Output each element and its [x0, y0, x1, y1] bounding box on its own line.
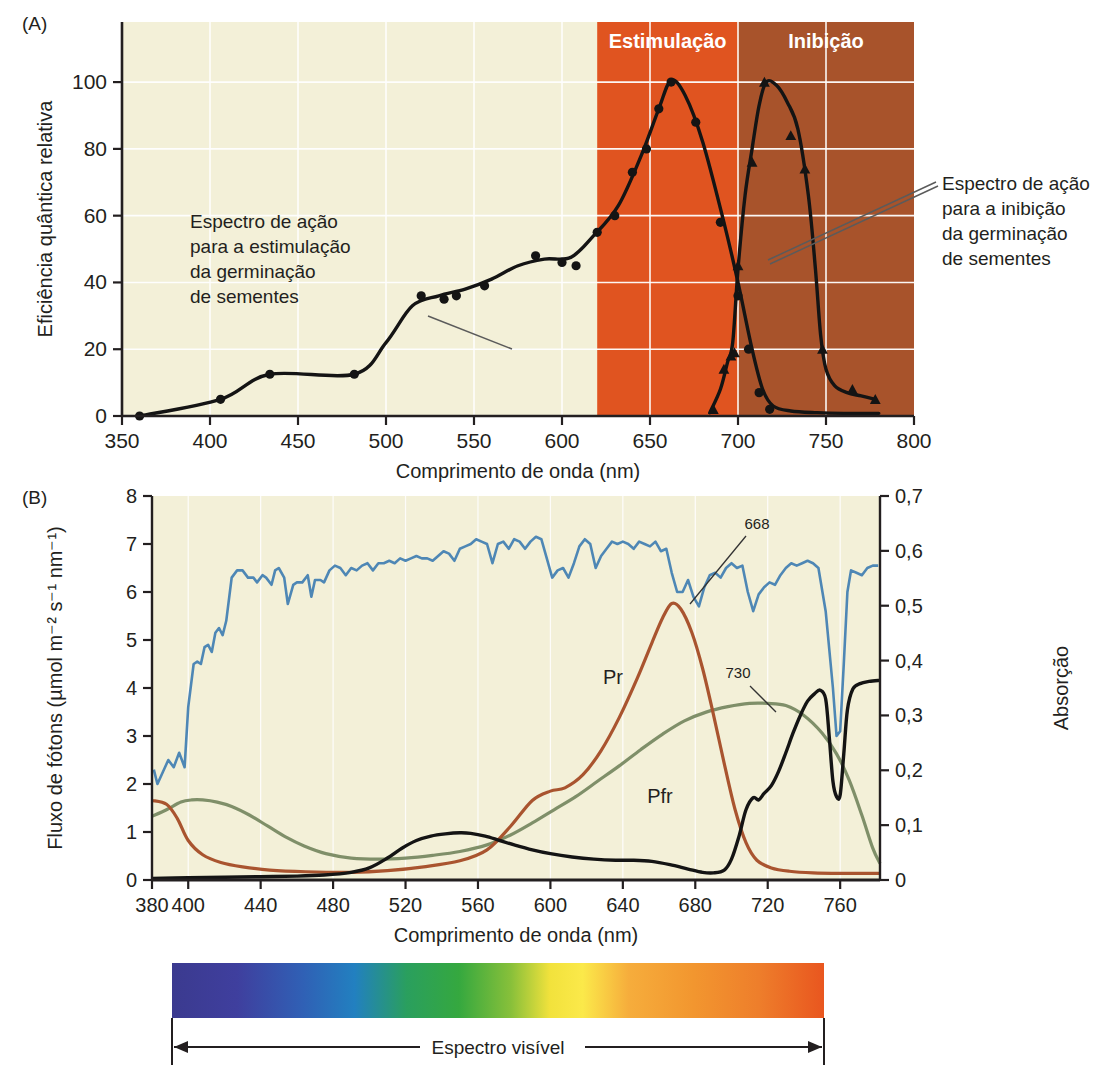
panel-b-x-tick-label: 720	[751, 894, 784, 916]
panel-a-y-tick-label: 40	[84, 270, 107, 293]
figure-root: (A) (B) EstimulaçãoInibição0204060801003…	[0, 0, 1113, 1069]
panel-b-x-tick-label: 480	[316, 894, 349, 916]
panel-b-x-tick-label: 440	[244, 894, 277, 916]
panel-a-y-tick-label: 100	[72, 70, 107, 93]
panel-b-y-tick-label-left: 6	[126, 581, 137, 603]
panel-a-y-tick-label: 20	[84, 337, 107, 360]
panel-a-stimulation-point	[610, 211, 619, 220]
panel-a-stimulation-point	[755, 388, 764, 397]
panel-b-x-tick-label: 520	[389, 894, 422, 916]
panel-b-y-tick-label-left: 5	[126, 629, 137, 651]
panel-b-y-tick-label-right: 0,1	[895, 814, 923, 836]
panel-a-x-tick-label: 650	[632, 429, 667, 452]
panel-a-y-tick-label: 60	[84, 204, 107, 227]
panel-a-stimulation-point	[452, 291, 461, 300]
panel-b-pfr-label: Pfr	[647, 785, 673, 807]
figure-svg: EstimulaçãoInibição020406080100350400450…	[0, 0, 1113, 1069]
panel-b-y-tick-label-left: 7	[126, 533, 137, 555]
panel-b-x-tick-label: 760	[823, 894, 856, 916]
panel-a-stimulation-point	[571, 261, 580, 270]
panel-b-y-tick-label-right: 0,5	[895, 595, 923, 617]
panel-a-annotation-left: da germinação	[190, 261, 316, 282]
spectrum-arrow-head-left	[174, 1041, 188, 1053]
panel-a-y-tick-label: 80	[84, 137, 107, 160]
panel-b-y-tick-label-left: 8	[126, 485, 137, 507]
panel-a-stimulation-point	[716, 218, 725, 227]
panel-a-x-tick-label: 400	[192, 429, 227, 452]
panel-b-x-tick-label: 640	[606, 894, 639, 916]
panel-b-x-tick-label: 680	[679, 894, 712, 916]
panel-a-stimulation-point	[744, 345, 753, 354]
panel-a-tag: (A)	[22, 13, 47, 35]
panel-a-stimulation-point	[480, 281, 489, 290]
panel-a-band-label: Estimulação	[609, 30, 727, 52]
panel-a-stimulation-point	[765, 405, 774, 414]
panel-b-pr-peak-label: 668	[744, 515, 769, 532]
panel-b-y-axis-title-left: Fluxo de fótons (µmol m⁻² s⁻¹ nm⁻¹)	[44, 526, 66, 849]
panel-b-x-tick-label: 560	[461, 894, 494, 916]
panel-b-x-tick-label: 400	[172, 894, 205, 916]
spectrum-arrow-head-right	[808, 1041, 822, 1053]
panel-a-x-tick-label: 800	[896, 429, 931, 452]
panel-b-y-tick-label-right: 0,6	[895, 540, 923, 562]
panel-b-y-tick-label-right: 0,2	[895, 759, 923, 781]
spectrum-bar-group: Espectro visível	[172, 963, 824, 1065]
panel-b-y-tick-label-right: 0,3	[895, 704, 923, 726]
spectrum-label: Espectro visível	[431, 1037, 564, 1058]
panel-a-stimulation-point	[531, 251, 540, 260]
panel-a-stimulation-point	[350, 370, 359, 379]
panel-a-stimulation-point	[417, 291, 426, 300]
panel-b-y-tick-label-right: 0	[895, 869, 906, 891]
panel-a-x-tick-label: 350	[104, 429, 139, 452]
panel-b-y-axis-title-right: Absorção	[1050, 646, 1072, 731]
panel-b-x-axis-title: Comprimento de onda (nm)	[394, 924, 639, 946]
panel-b-pfr-peak-label: 730	[725, 664, 750, 681]
panel-a-annotation-left: Espectro de ação	[190, 211, 338, 232]
panel-a-stimulation-point	[557, 258, 566, 267]
panel-a-stimulation-point	[733, 291, 742, 300]
panel-a-annotation-right: da germinação	[942, 223, 1068, 244]
panel-b-pr-label: Pr	[603, 666, 623, 688]
panel-a-x-tick-label: 700	[720, 429, 755, 452]
panel-b-tag: (B)	[22, 487, 47, 509]
panel-a-stimulation-point	[654, 104, 663, 113]
panel-b-y-tick-label-left: 3	[126, 725, 137, 747]
panel-b-y-tick-label-left: 4	[126, 677, 137, 699]
panel-b-y-tick-label-right: 0,7	[895, 485, 923, 507]
panel-b-y-tick-label-right: 0,4	[895, 650, 923, 672]
panel-a-stimulation-point	[691, 118, 700, 127]
panel-a-chart: EstimulaçãoInibição020406080100350400450…	[34, 22, 1090, 482]
panel-a-y-axis-title: Eficiência quântica relativa	[34, 100, 56, 338]
panel-a-annotation-left: para a estimulação	[190, 236, 351, 257]
panel-a-x-axis-title: Comprimento de onda (nm)	[396, 460, 641, 482]
panel-a-x-tick-label: 450	[280, 429, 315, 452]
panel-b-y-tick-label-left: 0	[126, 869, 137, 891]
panel-a-stimulation-point	[667, 78, 676, 87]
panel-a-stimulation-point	[216, 395, 225, 404]
panel-a-x-tick-label: 550	[456, 429, 491, 452]
panel-a-x-tick-label: 500	[368, 429, 403, 452]
panel-b-y-tick-label-left: 2	[126, 773, 137, 795]
panel-a-stimulation-point	[439, 295, 448, 304]
panel-a-stimulation-point	[265, 370, 274, 379]
panel-b-x-tick-label: 600	[534, 894, 567, 916]
panel-b-chart: 01234567800,10,20,30,40,50,60,7380400440…	[44, 485, 1072, 946]
panel-a-x-tick-label: 600	[544, 429, 579, 452]
panel-a-band-label: Inibição	[788, 30, 864, 52]
panel-b-y-tick-label-left: 1	[126, 821, 137, 843]
panel-a-annotation-right: de sementes	[942, 248, 1051, 269]
panel-b-x-tick-label: 380	[135, 894, 168, 916]
panel-a-stimulation-point	[642, 144, 651, 153]
panel-a-annotation-right: para a inibição	[942, 198, 1066, 219]
panel-a-annotation-right: Espectro de ação	[942, 173, 1090, 194]
panel-a-stimulation-point	[593, 228, 602, 237]
panel-a-y-tick-label: 0	[95, 404, 107, 427]
panel-a-stimulation-point	[628, 168, 637, 177]
panel-a-annotation-left: de sementes	[190, 286, 299, 307]
panel-a-x-tick-label: 750	[808, 429, 843, 452]
spectrum-bar	[172, 963, 824, 1018]
